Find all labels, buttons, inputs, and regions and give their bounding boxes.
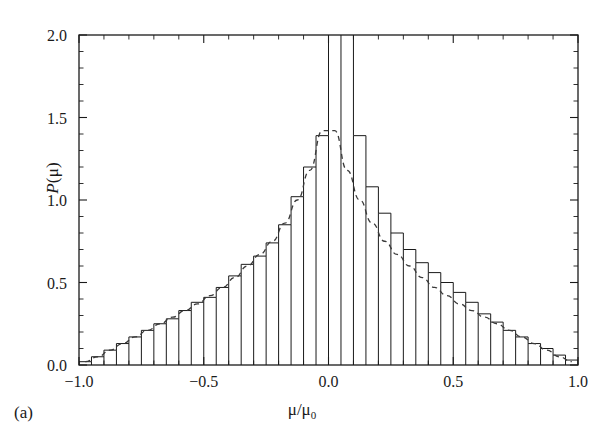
x-tick-label: 0.0 bbox=[319, 373, 339, 390]
y-axis-label-arg: (μ) bbox=[43, 162, 62, 183]
y-tick-label: 1.5 bbox=[47, 110, 67, 127]
y-axis-label: P(μ) bbox=[43, 133, 63, 223]
y-axis-label-symbol: P bbox=[43, 183, 62, 194]
x-axis-label: μ/μ0 bbox=[0, 400, 604, 421]
figure-panel-a: −1.0−0.50.00.51.00.00.51.01.52.0 P(μ) μ/… bbox=[0, 0, 604, 447]
y-tick-label: 2.0 bbox=[47, 27, 67, 44]
x-axis-label-text: μ/μ bbox=[288, 400, 311, 419]
x-tick-label: −0.5 bbox=[189, 373, 218, 390]
x-axis-label-subscript: 0 bbox=[311, 409, 317, 421]
y-tick-label: 0.5 bbox=[47, 275, 67, 292]
x-tick-label: −1.0 bbox=[64, 373, 93, 390]
x-tick-label: 0.5 bbox=[443, 373, 463, 390]
distribution-histogram-chart: −1.0−0.50.00.51.00.00.51.01.52.0 bbox=[0, 0, 604, 447]
panel-label: (a) bbox=[14, 403, 33, 423]
y-tick-label: 0.0 bbox=[47, 357, 67, 374]
x-tick-label: 1.0 bbox=[568, 373, 588, 390]
